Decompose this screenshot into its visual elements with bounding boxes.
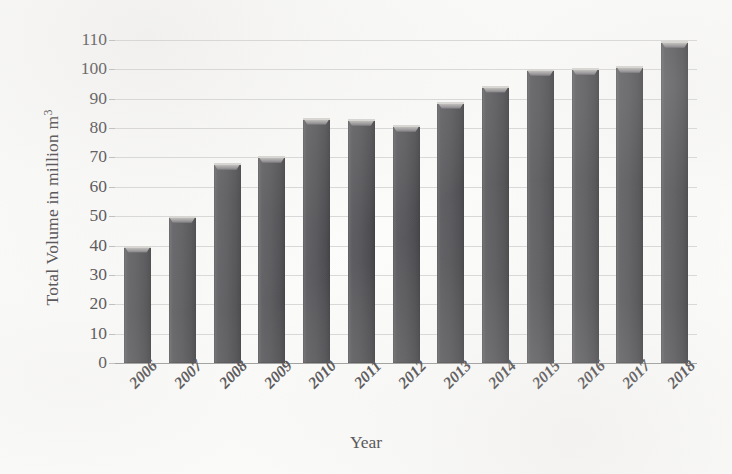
bar-2016[interactable] [572,68,599,363]
bar-2012[interactable] [393,125,420,363]
y-tick-label: 60 [90,176,108,197]
x-tick-label-2016: 2016 [563,368,608,386]
bar-2010[interactable] [303,118,330,363]
x-tick-label-2008: 2008 [205,368,250,386]
x-tick-label-2011: 2011 [339,368,384,386]
x-tick-label-2015: 2015 [518,368,563,386]
bar-top-highlight [348,119,375,121]
bar-top-highlight [661,41,688,43]
x-tick-label-2010: 2010 [294,368,339,386]
y-axis-title: Total Volume in million m3 [41,37,64,377]
y-tick-label: 30 [90,264,108,285]
bar-top-highlight [482,86,509,88]
bar-top-highlight [616,66,643,68]
x-tick-label-2007: 2007 [160,368,205,386]
bar-2014[interactable] [482,86,509,363]
bar-2015[interactable] [527,69,554,363]
bar-2013[interactable] [437,102,464,363]
y-tick-label: 40 [90,235,108,256]
bar-2007[interactable] [169,216,196,363]
bar-top-highlight [572,68,599,70]
bar-top-highlight [169,216,196,218]
bar-top-highlight [258,156,285,158]
y-tick-mark [109,363,115,364]
y-tick-label: 110 [81,29,107,50]
x-axis-title: Year [0,432,732,453]
y-tick-label: 0 [98,352,107,373]
bar-2011[interactable] [348,119,375,363]
bar-2009[interactable] [258,156,285,363]
plot-area: 0102030405060708090100110 [115,40,697,363]
bar-top-highlight [214,163,241,165]
bar-top-highlight [437,102,464,104]
bar-2008[interactable] [214,163,241,363]
bar-top-highlight [303,118,330,120]
bar-top-highlight [124,246,151,248]
x-tick-label-2014: 2014 [473,368,518,386]
bar-2006[interactable] [124,246,151,363]
y-tick-label: 50 [90,205,108,226]
y-tick-label: 70 [90,147,108,168]
bar-chart: Total Volume in million m3 0102030405060… [0,0,732,474]
x-tick-label-2017: 2017 [607,368,652,386]
x-tick-label-2013: 2013 [428,368,473,386]
x-tick-label-2006: 2006 [115,368,160,386]
bars-layer [115,40,697,363]
x-tick-label-2018: 2018 [652,368,697,386]
x-axis-baseline [115,363,697,364]
x-axis-ticks: 2006200720082009201020112012201320142015… [115,368,697,428]
x-tick-label-2009: 2009 [249,368,294,386]
y-axis-title-superscript: 3 [41,109,55,115]
x-tick-label-2012: 2012 [384,368,429,386]
bar-2017[interactable] [616,66,643,363]
bar-top-highlight [393,125,420,127]
y-axis-title-text: Total Volume in million m [42,116,62,306]
y-tick-label: 10 [90,323,108,344]
bar-top-highlight [527,69,554,71]
y-tick-label: 80 [90,117,108,138]
y-tick-label: 90 [90,88,108,109]
bar-2018[interactable] [661,41,688,363]
y-tick-label: 100 [81,58,107,79]
y-tick-label: 20 [90,293,108,314]
